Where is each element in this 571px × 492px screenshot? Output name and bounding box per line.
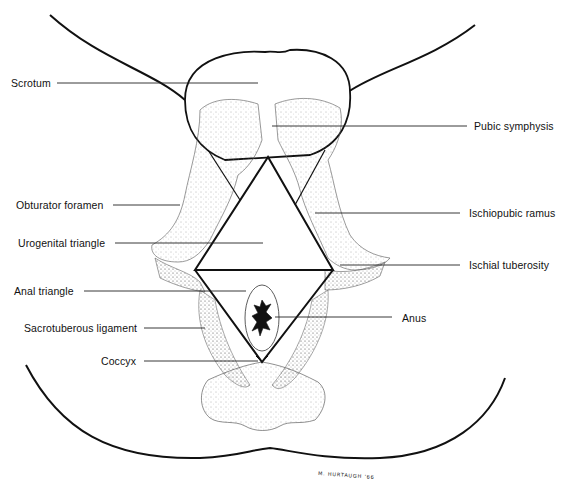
label-obturator-foramen: Obturator foramen xyxy=(16,199,104,211)
label-urogenital-triangle: Urogenital triangle xyxy=(18,237,105,249)
left-thigh-outline xyxy=(50,15,185,100)
label-pubic-symphysis: Pubic symphysis xyxy=(474,120,554,132)
label-anal-triangle: Anal triangle xyxy=(14,285,74,297)
right-thigh-outline xyxy=(348,25,475,92)
right-pubic-ramus xyxy=(275,98,390,270)
label-ischial-tuberosity: Ischial tuberosity xyxy=(469,259,549,271)
label-scrotum: Scrotum xyxy=(11,77,51,89)
coccyx-shape xyxy=(201,362,325,431)
label-ischiopubic-ramus: Ischiopubic ramus xyxy=(469,207,555,219)
label-anus: Anus xyxy=(402,312,426,324)
perineum-diagram: Scrotum Obturator foramen Urogenital tri… xyxy=(0,0,571,492)
label-sacrotuberous-ligament: Sacrotuberous ligament xyxy=(24,322,137,334)
anus-icon xyxy=(252,300,272,336)
label-coccyx: Coccyx xyxy=(101,355,136,367)
left-pubic-ramus xyxy=(152,99,262,262)
